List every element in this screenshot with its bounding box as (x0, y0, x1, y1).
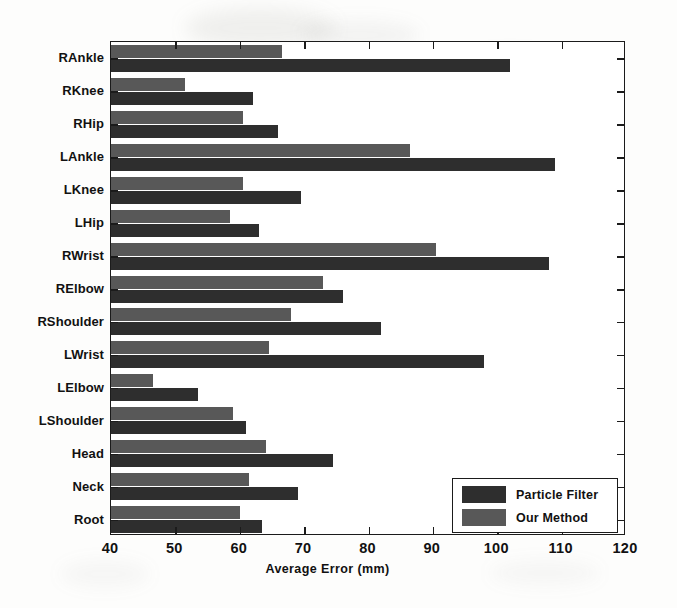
y-tick-root (111, 520, 118, 522)
x-tick-label-90: 90 (424, 540, 441, 556)
y-axis-label-lwrist: LWrist (0, 346, 104, 361)
bar-particle-filter-neck (111, 487, 298, 500)
bar-particle-filter-lshoulder (111, 421, 246, 434)
x-tick-top-50 (175, 42, 177, 49)
y-tick-right-neck (617, 487, 624, 489)
x-axis-title: Average Error (mm) (0, 562, 677, 576)
x-tick-label-70: 70 (295, 540, 312, 556)
x-tick-80 (369, 527, 371, 534)
y-tick-lelbow (111, 388, 118, 390)
bar-our-method-lshoulder (111, 407, 233, 420)
bar-particle-filter-relbow (111, 290, 343, 303)
bar-our-method-lwrist (111, 341, 269, 354)
bar-our-method-rshoulder (111, 308, 291, 321)
bar-our-method-rankle (111, 45, 282, 58)
y-tick-right-rhip (617, 124, 624, 126)
bar-particle-filter-rwrist (111, 257, 549, 270)
legend-entry-particle-filter: Particle Filter (462, 485, 598, 504)
y-tick-right-head (617, 454, 624, 456)
y-tick-relbow (111, 289, 118, 291)
x-tick-label-120: 120 (612, 540, 637, 556)
x-tick-label-60: 60 (230, 540, 247, 556)
y-axis-label-rankle: RAnkle (0, 50, 104, 65)
legend-entry-our-method: Our Method (462, 508, 588, 527)
y-axis-label-head: Head (0, 445, 104, 460)
legend-swatch-icon (462, 509, 506, 526)
bar-particle-filter-lankle (111, 158, 555, 171)
bar-particle-filter-rshoulder (111, 322, 381, 335)
legend: Particle Filter Our Method (452, 478, 618, 533)
y-axis-label-rwrist: RWrist (0, 248, 104, 263)
y-axis-label-relbow: RElbow (0, 281, 104, 296)
x-tick-top-90 (433, 42, 435, 49)
y-axis-label-lknee: LKnee (0, 182, 104, 197)
y-tick-right-relbow (617, 289, 624, 291)
y-tick-right-rknee (617, 91, 624, 93)
y-tick-right-lhip (617, 223, 624, 225)
y-tick-lankle (111, 157, 118, 159)
x-axis-title-text: Average Error (mm) (265, 562, 389, 576)
y-tick-right-lshoulder (617, 421, 624, 423)
y-tick-rshoulder (111, 322, 118, 324)
y-tick-right-lwrist (617, 355, 624, 357)
x-tick-label-110: 110 (548, 540, 572, 556)
legend-swatch-icon (462, 486, 506, 503)
legend-label: Our Method (516, 511, 588, 525)
bar-our-method-lknee (111, 177, 243, 190)
x-tick-60 (240, 527, 242, 534)
bar-particle-filter-lhip (111, 224, 259, 237)
x-tick-label-40: 40 (102, 540, 119, 556)
x-tick-label-80: 80 (359, 540, 376, 556)
x-tick-top-80 (369, 42, 371, 49)
y-axis-label-rshoulder: RShoulder (0, 313, 104, 328)
y-tick-right-lankle (617, 157, 624, 159)
y-tick-lwrist (111, 355, 118, 357)
bar-particle-filter-rknee (111, 92, 253, 105)
y-axis-label-rhip: RHip (0, 116, 104, 131)
y-tick-rhip (111, 124, 118, 126)
y-tick-rwrist (111, 256, 118, 258)
y-tick-lhip (111, 223, 118, 225)
y-tick-right-rshoulder (617, 322, 624, 324)
bar-our-method-root (111, 506, 240, 519)
x-tick-top-60 (240, 42, 242, 49)
x-tick-top-70 (304, 42, 306, 49)
bar-our-method-rwrist (111, 243, 436, 256)
y-tick-neck (111, 487, 118, 489)
bar-particle-filter-rhip (111, 125, 278, 138)
y-tick-rknee (111, 91, 118, 93)
bar-particle-filter-lknee (111, 191, 301, 204)
y-tick-right-root (617, 520, 624, 522)
bar-our-method-head (111, 440, 266, 453)
y-axis-label-rknee: RKnee (0, 83, 104, 98)
y-tick-rankle (111, 58, 118, 60)
chart-figure: 405060708090100110120 RAnkleRKneeRHipLAn… (0, 0, 677, 608)
x-tick-top-100 (497, 42, 499, 49)
bar-our-method-lhip (111, 210, 230, 223)
bar-our-method-rhip (111, 111, 243, 124)
legend-label: Particle Filter (516, 488, 598, 502)
y-tick-right-rankle (617, 58, 624, 60)
bar-particle-filter-lwrist (111, 355, 484, 368)
y-axis-label-lelbow: LElbow (0, 379, 104, 394)
x-tick-50 (175, 527, 177, 534)
bar-our-method-lankle (111, 144, 410, 157)
y-tick-right-lknee (617, 190, 624, 192)
bar-our-method-relbow (111, 276, 323, 289)
y-tick-lshoulder (111, 421, 118, 423)
plot-area (110, 41, 625, 535)
y-tick-lknee (111, 190, 118, 192)
x-tick-label-50: 50 (166, 540, 183, 556)
x-tick-label-100: 100 (484, 540, 509, 556)
bar-our-method-rknee (111, 78, 185, 91)
y-tick-head (111, 454, 118, 456)
y-axis-label-neck: Neck (0, 478, 104, 493)
x-tick-70 (304, 527, 306, 534)
bar-our-method-lelbow (111, 374, 153, 387)
y-tick-right-lelbow (617, 388, 624, 390)
y-axis-label-lhip: LHip (0, 215, 104, 230)
y-axis-label-lshoulder: LShoulder (0, 412, 104, 427)
bar-particle-filter-lelbow (111, 388, 198, 401)
x-tick-top-110 (562, 42, 564, 49)
y-axis-label-lankle: LAnkle (0, 149, 104, 164)
